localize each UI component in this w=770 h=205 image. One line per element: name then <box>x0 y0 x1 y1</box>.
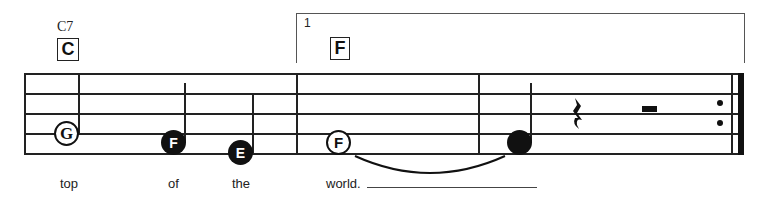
lyric-of: of <box>168 176 179 191</box>
chord-box-f: F <box>330 37 350 60</box>
note-g-stem <box>78 74 80 134</box>
repeat-dot-lower <box>717 120 723 126</box>
lyric-world: world. <box>326 176 361 191</box>
repeat-dot-upper <box>717 100 723 106</box>
note-e-stem <box>252 93 254 153</box>
lyric-extender-line <box>367 187 537 188</box>
note-tied-end-stem <box>530 83 532 143</box>
note-f: F <box>161 130 186 155</box>
ending-number: 1 <box>304 16 311 30</box>
chord-symbol-c7: C7 <box>57 19 73 35</box>
lyric-top: top <box>60 176 78 191</box>
barline-end-thin <box>731 74 733 154</box>
staff-line-4 <box>24 133 741 135</box>
staff-line-1 <box>24 73 741 75</box>
note-tied-end <box>507 130 532 155</box>
note-f-stem <box>184 83 186 143</box>
barline-1 <box>296 74 298 154</box>
barline-start <box>24 74 26 154</box>
staff-line-3 <box>24 113 741 115</box>
half-rest-icon <box>642 106 657 112</box>
note-g: G <box>54 121 79 146</box>
note-e: E <box>228 140 253 165</box>
note-f-tied: F <box>326 130 351 155</box>
barline-2 <box>478 74 480 154</box>
tie-icon <box>350 150 510 180</box>
lyric-the: the <box>232 176 250 191</box>
staff-line-2 <box>24 93 741 95</box>
quarter-rest-icon <box>570 96 588 132</box>
first-ending-bracket <box>296 13 745 63</box>
chord-box-c: C <box>57 38 79 61</box>
barline-end-thick <box>738 73 744 155</box>
